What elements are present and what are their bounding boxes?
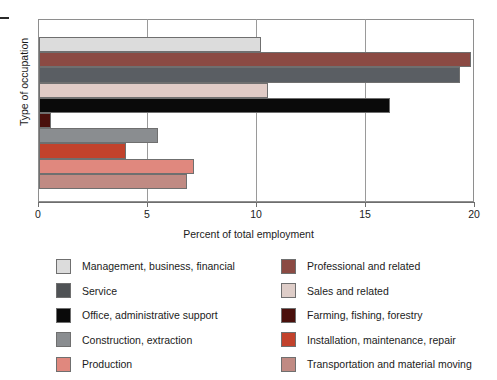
bar [39, 143, 126, 158]
legend-item-label: Production [82, 358, 132, 370]
legend-swatch-icon [281, 308, 296, 323]
legend-item[interactable]: Installation, maintenance, repair [281, 328, 486, 353]
bar-row [39, 67, 474, 82]
bar [39, 159, 194, 174]
legend-swatch-icon [281, 283, 296, 298]
x-axis-tick-label: 5 [127, 208, 167, 220]
legend-item-label: Farming, fishing, forestry [307, 309, 423, 321]
legend-swatch-icon [56, 357, 71, 372]
legend-item[interactable]: Transportation and material moving [281, 352, 486, 377]
x-axis-tick-label: 20 [454, 208, 494, 220]
legend-item[interactable]: Service [56, 279, 281, 304]
legend-item[interactable]: Construction, extraction [56, 328, 281, 353]
chart-legend: Management, business, financialServiceOf… [56, 254, 486, 377]
x-axis-tick [147, 202, 148, 207]
x-axis-tick [256, 202, 257, 207]
legend-swatch-icon [281, 259, 296, 274]
registration-tick [0, 17, 9, 19]
legend-item[interactable]: Sales and related [281, 279, 486, 304]
x-axis-tick [474, 202, 475, 207]
bar [39, 128, 158, 143]
x-axis-tick [38, 202, 39, 207]
legend-swatch-icon [56, 308, 71, 323]
legend-swatch-icon [281, 357, 296, 372]
legend-item[interactable]: Farming, fishing, forestry [281, 303, 486, 328]
bar-row [39, 52, 474, 67]
x-axis-title: Percent of total employment [0, 228, 497, 240]
bar-row [39, 113, 474, 128]
x-axis-tick-label: 0 [18, 208, 58, 220]
x-axis-tick-label: 10 [236, 208, 276, 220]
bar [39, 113, 51, 128]
bar-row [39, 143, 474, 158]
bar [39, 98, 390, 113]
y-axis-title: Type of occupation [18, 12, 30, 152]
bar-row [39, 37, 474, 52]
bar [39, 37, 261, 52]
bar [39, 174, 187, 189]
legend-swatch-icon [56, 259, 71, 274]
legend-item-label: Transportation and material moving [307, 358, 472, 370]
legend-item-label: Management, business, financial [82, 260, 235, 272]
legend-column-right: Professional and relatedSales and relate… [281, 254, 486, 377]
legend-item[interactable]: Office, administrative support [56, 303, 281, 328]
legend-item-label: Professional and related [307, 260, 420, 272]
bar [39, 67, 460, 82]
legend-item[interactable]: Management, business, financial [56, 254, 281, 279]
x-axis-tick-label: 15 [345, 208, 385, 220]
legend-column-left: Management, business, financialServiceOf… [56, 254, 281, 377]
legend-item-label: Installation, maintenance, repair [307, 334, 456, 346]
legend-item-label: Construction, extraction [82, 334, 192, 346]
bar-row [39, 98, 474, 113]
bar [39, 52, 471, 67]
bar [39, 83, 268, 98]
x-axis-tick [365, 202, 366, 207]
legend-item-label: Sales and related [307, 285, 389, 297]
bar-series [39, 37, 474, 189]
bar-row [39, 159, 474, 174]
bar-row [39, 83, 474, 98]
legend-item-label: Service [82, 285, 117, 297]
legend-item[interactable]: Production [56, 352, 281, 377]
bar-row [39, 174, 474, 189]
legend-swatch-icon [56, 332, 71, 347]
legend-swatch-icon [281, 332, 296, 347]
legend-item[interactable]: Professional and related [281, 254, 486, 279]
bar-row [39, 128, 474, 143]
legend-swatch-icon [56, 283, 71, 298]
legend-item-label: Office, administrative support [82, 309, 218, 321]
